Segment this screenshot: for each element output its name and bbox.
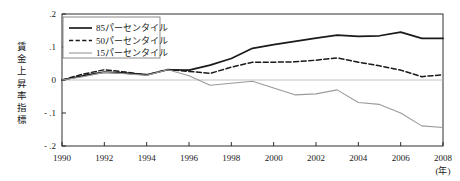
- x-tick-label: 2008: [434, 153, 453, 163]
- y-axis-tick-labels: .2.10- .1- .2: [44, 9, 57, 151]
- y-tick-label: 0: [52, 75, 57, 85]
- legend-label-3: 15パーセンタイル: [96, 48, 168, 58]
- x-tick-label: 1994: [138, 153, 157, 163]
- y-tick-label: - .2: [44, 141, 56, 151]
- chart-figure: .2.10- .1- .2 19901992199419961998200020…: [0, 0, 460, 181]
- x-axis-ticks: [62, 142, 443, 146]
- y-axis-title-char: 標: [17, 114, 27, 125]
- x-tick-label: 2000: [265, 153, 284, 163]
- legend-entries: 85パーセンタイル50パーセンタイル15パーセンタイル: [69, 23, 168, 58]
- x-tick-label: 1998: [222, 153, 241, 163]
- y-tick-label: - .1: [44, 108, 56, 118]
- y-axis-title-char: 賃: [17, 41, 27, 52]
- y-axis-title-char: 昇: [17, 79, 27, 89]
- y-axis-title-char: 金: [17, 53, 27, 64]
- x-tick-label: 1990: [53, 153, 72, 163]
- y-axis-title-char: 上: [17, 66, 27, 76]
- x-tick-label: 2006: [392, 153, 411, 163]
- legend-label-1: 85パーセンタイル: [96, 23, 168, 33]
- legend-label-2: 50パーセンタイル: [96, 36, 168, 46]
- y-axis-title-char: 率: [17, 90, 27, 101]
- y-axis-title-char: 指: [17, 102, 27, 113]
- wage-growth-index-line-chart: .2.10- .1- .2 19901992199419961998200020…: [0, 0, 460, 181]
- y-tick-label: .1: [49, 42, 56, 52]
- x-tick-label: 1992: [95, 153, 113, 163]
- legend: 85パーセンタイル50パーセンタイル15パーセンタイル: [63, 17, 168, 58]
- series-line-3: [62, 70, 443, 128]
- x-tick-label: 2002: [307, 153, 325, 163]
- x-axis-tick-labels: 1990199219941996199820002002200420062008: [53, 153, 453, 163]
- x-axis-unit-label: (年): [436, 165, 451, 176]
- x-tick-label: 2004: [349, 153, 368, 163]
- y-tick-label: .2: [49, 9, 56, 19]
- series-line-2: [62, 58, 443, 80]
- x-tick-label: 1996: [180, 153, 199, 163]
- y-axis-title: 賃金上昇率指標: [17, 41, 27, 125]
